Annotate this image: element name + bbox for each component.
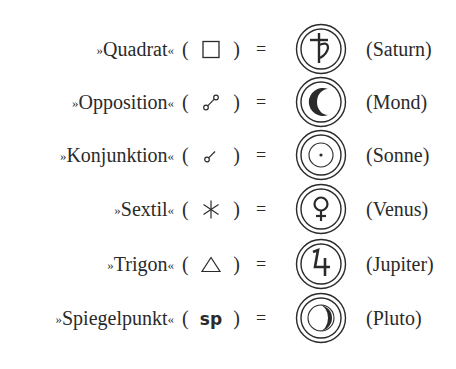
paren-close: ) [233,91,240,114]
paren-open: ( [182,253,189,276]
planet-name: (Mond) [366,91,427,114]
conjunction-icon [198,144,224,166]
equals-sign: = [256,145,266,166]
aspect-term: »Konjunktion« [60,144,174,167]
aspect-symbol-group: ( ) [182,38,240,61]
paren-close: ) [233,253,240,276]
term-label: Konjunktion [66,144,167,166]
paren-open: ( [182,144,189,167]
equals-sign: = [256,308,266,329]
aspect-term: »Sextil« [114,198,174,221]
pluto-icon [295,292,347,344]
term-label: Trigon [114,253,168,275]
term-label: Opposition [79,91,168,113]
aspect-term: »Opposition« [72,91,174,114]
venus-icon [295,183,347,235]
guillemet-close: « [168,257,175,272]
paren-close: ) [233,198,240,221]
row-quadrat: »Quadrat« ( ) = (Saturn) [0,22,456,76]
paren-open: ( [182,38,189,61]
square-icon [198,38,224,60]
aspect-symbol-group: ( ) [182,253,240,276]
aspect-symbol-group: ( ) [182,144,240,167]
guillemet-close: « [168,95,175,110]
aspect-symbol-group: ( ) [182,198,240,221]
equals-sign: = [256,39,266,60]
spiegelpunkt-symbol: sp [198,307,224,329]
aspect-symbol-group: ( ) [182,91,240,114]
paren-close: ) [233,307,240,330]
planet-name: (Jupiter) [366,253,434,276]
term-label: Quadrat [103,38,167,60]
row-konjunktion: »Konjunktion« ( ) = (Sonne) [0,128,456,182]
term-label: Sextil [121,198,168,220]
paren-close: ) [233,38,240,61]
paren-open: ( [182,198,189,221]
guillemet-close: « [168,202,175,217]
saturn-icon [295,23,347,75]
paren-open: ( [182,91,189,114]
guillemet-close: « [168,148,175,163]
guillemet-close: « [168,42,175,57]
equals-sign: = [256,92,266,113]
aspect-symbol-group: ( sp ) [182,307,240,330]
row-trigon: »Trigon« ( ) = (Jupiter) [0,237,456,291]
planet-name: (Venus) [366,198,428,221]
equals-sign: = [256,254,266,275]
term-label: Spiegelpunkt [62,307,168,329]
moon-icon [295,76,347,128]
guillemet-close: « [168,311,175,326]
aspect-term: »Spiegelpunkt« [55,307,174,330]
opposition-icon [198,91,224,113]
aspect-term: »Quadrat« [97,38,174,61]
equals-sign: = [256,199,266,220]
planet-name: (Sonne) [366,144,429,167]
sun-icon [295,129,347,181]
row-opposition: »Opposition« ( ) = (Mond) [0,75,456,129]
row-sextil: »Sextil« ( ) = (Venus) [0,182,456,236]
triangle-icon [198,253,224,275]
paren-open: ( [182,307,189,330]
row-spiegelpunkt: »Spiegelpunkt« ( sp ) = (Pluto) [0,291,456,345]
paren-close: ) [233,144,240,167]
sextile-icon [198,198,224,220]
jupiter-icon [295,238,347,290]
planet-name: (Saturn) [366,38,432,61]
aspect-term: »Trigon« [107,253,174,276]
planet-name: (Pluto) [366,307,422,330]
